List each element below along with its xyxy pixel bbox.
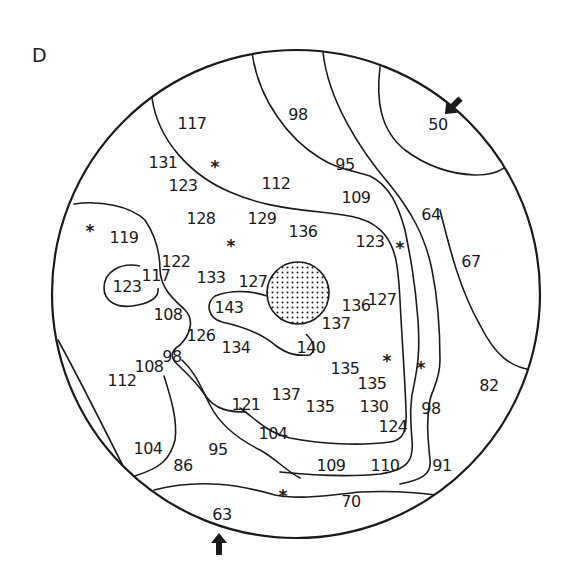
- asterisk-marker-icon: *: [86, 223, 95, 240]
- threshold-value: 63: [212, 507, 231, 523]
- threshold-value: 108: [134, 359, 163, 375]
- threshold-value: 131: [148, 155, 177, 171]
- isopter-112: [58, 340, 130, 480]
- asterisk-marker-icon: *: [227, 238, 236, 255]
- threshold-value: 121: [231, 397, 260, 413]
- threshold-value: 136: [341, 298, 370, 314]
- asterisk-marker-icon: *: [417, 360, 426, 377]
- threshold-value: 140: [296, 340, 325, 356]
- threshold-value: 123: [168, 178, 197, 194]
- blind-spot: [267, 262, 329, 324]
- threshold-value: 98: [162, 349, 181, 365]
- isopter-104: [135, 376, 176, 476]
- threshold-value: 123: [355, 234, 384, 250]
- threshold-value: 108: [153, 307, 182, 323]
- threshold-value: 124: [378, 419, 407, 435]
- threshold-value: 50: [428, 117, 447, 133]
- threshold-value: 117: [141, 268, 170, 284]
- asterisk-marker-icon: *: [279, 488, 288, 505]
- threshold-value: 104: [258, 426, 287, 442]
- threshold-value: 119: [109, 230, 138, 246]
- asterisk-marker-icon: *: [396, 240, 405, 257]
- isopter-98: [252, 52, 419, 476]
- threshold-value: 135: [305, 399, 334, 415]
- isopter-98-lower: [182, 360, 300, 478]
- threshold-value: 98: [421, 401, 440, 417]
- threshold-value: 104: [133, 441, 162, 457]
- threshold-value: 109: [341, 190, 370, 206]
- threshold-value: 112: [261, 176, 290, 192]
- asterisk-marker-icon: *: [383, 353, 392, 370]
- threshold-value: 117: [177, 116, 206, 132]
- threshold-value: 135: [330, 361, 359, 377]
- threshold-value: 133: [196, 270, 225, 286]
- threshold-value: 86: [173, 458, 192, 474]
- threshold-value: 137: [321, 316, 350, 332]
- threshold-value: 109: [316, 458, 345, 474]
- threshold-value: 95: [335, 157, 354, 173]
- threshold-value: 134: [221, 340, 250, 356]
- threshold-value: 137: [271, 387, 300, 403]
- threshold-value: 127: [367, 292, 396, 308]
- threshold-value: 67: [461, 254, 480, 270]
- threshold-value: 127: [238, 274, 267, 290]
- threshold-value: 70: [341, 494, 360, 510]
- threshold-value: 128: [186, 211, 215, 227]
- threshold-value: 110: [370, 458, 399, 474]
- isopter-70: [154, 484, 460, 498]
- threshold-value: 126: [186, 328, 215, 344]
- isopter-67: [440, 210, 532, 370]
- threshold-value: 82: [479, 378, 498, 394]
- arrow-bottom-icon: [211, 533, 227, 555]
- threshold-value: 136: [288, 224, 317, 240]
- threshold-value: 135: [357, 376, 386, 392]
- asterisk-marker-icon: *: [211, 159, 220, 176]
- threshold-value: 64: [421, 207, 440, 223]
- threshold-value: 91: [432, 458, 451, 474]
- threshold-value: 129: [247, 211, 276, 227]
- visual-field-diagram: D: [0, 0, 563, 586]
- threshold-value: 112: [107, 373, 136, 389]
- threshold-value: 98: [288, 107, 307, 123]
- threshold-value: 95: [208, 442, 227, 458]
- threshold-value: 130: [359, 399, 388, 415]
- threshold-value: 123: [112, 279, 141, 295]
- threshold-value: 143: [214, 300, 243, 316]
